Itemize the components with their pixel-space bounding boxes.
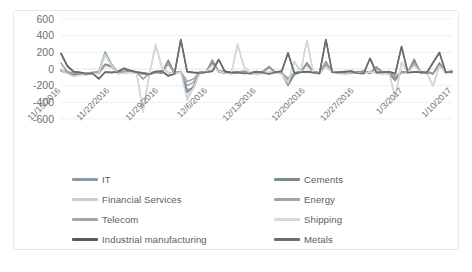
legend-item-telecom[interactable]: Telecom	[72, 209, 295, 229]
line-chart-svg: 6004002000-200-400-600 11/15/201611/22/2…	[14, 11, 460, 171]
legend-label-metals: Metals	[304, 234, 333, 245]
legend-item-metals[interactable]: Metals	[274, 229, 472, 249]
legend-label-industrial-manufacturing: Industrial manufacturing	[102, 234, 207, 245]
legend-column-right: Cements Energy Shipping Metals	[274, 169, 472, 249]
chart-legend: IT Financial Services Telecom Industrial…	[14, 169, 460, 249]
gridlines	[61, 19, 452, 119]
plot-area: 6004002000-200-400-600 11/15/201611/22/2…	[14, 11, 460, 171]
x-tick-label: 12/20/2016	[269, 85, 307, 123]
legend-item-industrial-manufacturing[interactable]: Industrial manufacturing	[72, 229, 295, 249]
legend-swatch-energy	[274, 198, 300, 201]
legend-label-financial-services: Financial Services	[102, 194, 182, 205]
legend-swatch-telecom	[72, 218, 98, 221]
legend-swatch-shipping	[274, 218, 300, 221]
legend-item-energy[interactable]: Energy	[274, 189, 472, 209]
x-tick-label: 11/22/2016	[74, 85, 111, 122]
y-tick-label: 400	[36, 29, 54, 41]
legend-swatch-metals	[274, 238, 300, 241]
legend-item-it[interactable]: IT	[72, 169, 295, 189]
legend-swatch-cements	[274, 178, 300, 181]
legend-label-shipping: Shipping	[304, 214, 342, 225]
chart-container: 6004002000-200-400-600 11/15/201611/22/2…	[13, 10, 459, 250]
legend-swatch-it	[72, 178, 98, 181]
y-tick-label: 200	[36, 46, 54, 58]
legend-item-cements[interactable]: Cements	[274, 169, 472, 189]
x-tick-label: 11/29/2016	[123, 85, 160, 122]
legend-label-telecom: Telecom	[102, 214, 138, 225]
x-tick-label: 1/3/2017	[374, 85, 405, 116]
x-axis-tick-labels: 11/15/201611/22/201611/29/201612/6/20161…	[25, 85, 453, 123]
legend-swatch-financial-services	[72, 198, 98, 201]
legend-item-shipping[interactable]: Shipping	[274, 209, 472, 229]
legend-label-cements: Cements	[304, 174, 343, 185]
legend-column-left: IT Financial Services Telecom Industrial…	[72, 169, 295, 249]
x-tick-label: 12/27/2016	[318, 85, 356, 123]
legend-item-financial-services[interactable]: Financial Services	[72, 189, 295, 209]
y-tick-label: 0	[48, 63, 54, 75]
x-tick-label: 12/13/2016	[220, 85, 258, 123]
y-tick-label: 600	[36, 13, 54, 25]
legend-label-energy: Energy	[304, 194, 335, 205]
legend-label-it: IT	[102, 174, 111, 185]
legend-swatch-industrial-manufacturing	[72, 238, 98, 241]
